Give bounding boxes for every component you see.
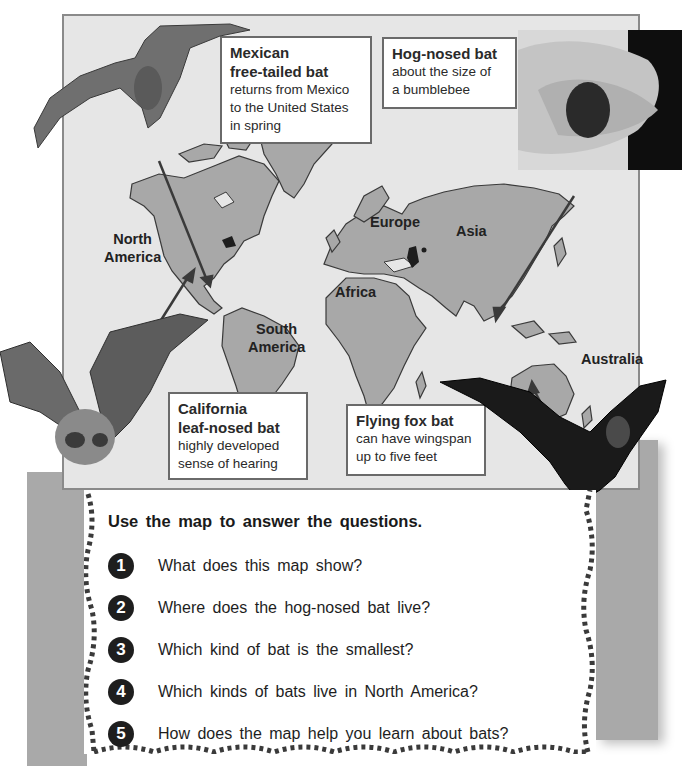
question-item-5: 5 How does the map help you learn about … [108, 721, 508, 747]
label-south-america-line1: South [248, 320, 305, 338]
label-north-america-line1: North [104, 230, 161, 248]
california-leaf-nosed-bat-photo [0, 312, 210, 482]
hog-nosed-bat-photo [518, 30, 682, 170]
question-item-1: 1 What does this map show? [108, 553, 362, 579]
question-text: Which kind of bat is the smallest? [158, 641, 413, 659]
mexican-free-tailed-bat-photo [30, 18, 250, 168]
question-item-2: 2 Where does the hog-nosed bat live? [108, 595, 430, 621]
question-text: What does this map show? [158, 557, 362, 575]
question-item-3: 3 Which kind of bat is the smallest? [108, 637, 413, 663]
label-australia: Australia [581, 350, 643, 368]
callout-title: Hog-nosed bat [392, 44, 507, 63]
question-number-badge: 3 [108, 637, 134, 663]
label-north-america: North America [104, 230, 161, 266]
label-africa: Africa [335, 283, 376, 301]
question-text: Which kinds of bats live in North Americ… [158, 683, 478, 701]
label-asia: Asia [456, 222, 487, 240]
questions-heading: Use the map to answer the questions. [108, 512, 422, 531]
question-number-badge: 4 [108, 679, 134, 705]
label-europe: Europe [370, 213, 420, 231]
label-north-america-line2: America [104, 248, 161, 266]
question-number-badge: 2 [108, 595, 134, 621]
callout-description: a bumblebee [392, 81, 507, 99]
question-item-4: 4 Which kinds of bats live in North Amer… [108, 679, 478, 705]
question-number-badge: 5 [108, 721, 134, 747]
question-text: Where does the hog-nosed bat live? [158, 599, 430, 617]
question-text: How does the map help you learn about ba… [158, 725, 508, 743]
label-south-america: South America [248, 320, 305, 356]
question-number-badge: 1 [108, 553, 134, 579]
decorative-panel-left [27, 472, 87, 766]
label-south-america-line2: America [248, 338, 305, 356]
callout-hog-nosed-bat: Hog-nosed bat about the size of a bumble… [382, 37, 517, 109]
callout-description: about the size of [392, 63, 507, 81]
